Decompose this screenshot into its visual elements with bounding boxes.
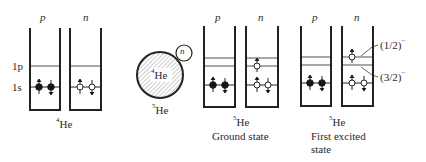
neutron-spin-up [254,77,260,92]
excited-proton-well [301,26,331,106]
excited-caption-line1: First excited [311,131,366,142]
proton-spin-up [307,75,314,90]
core-he4-label: 4He [151,70,167,81]
excited-neutron-column-label: n [354,12,360,23]
extra-neutron-label: n [180,47,185,56]
excited-caption-line2: state [311,144,331,155]
proton-spin-up [36,79,43,94]
level-three-halves-label: (3/2)− [380,72,405,83]
ground-he5-label: 5He [233,117,249,128]
neutron-spin-up [77,79,83,94]
proton-spin-down [48,80,55,95]
excited-neutron-well [342,26,378,106]
he4-proton-well [30,28,60,110]
neutron-spin-up [349,49,355,63]
proton-spin-down [222,78,229,93]
proton-spin-up [210,77,217,92]
he4-neutron-well [70,28,101,110]
level-half-label: (1/2)− [380,40,405,51]
he4-label: 4He [56,119,72,130]
proton-spin-down [319,76,326,91]
level-1p-label: 1p [12,61,23,72]
neutron-spin-up [349,75,355,90]
level-1s-label: 1s [12,82,22,93]
ground-proton-well [204,26,235,107]
ground-proton-column-label: p [215,12,221,23]
he5-cluster-label: 5He [152,105,168,116]
ground-neutron-column-label: n [258,12,264,23]
excited-proton-column-label: p [312,12,318,23]
neutron-spin-up [254,58,260,72]
proton-column-label: p [40,12,46,23]
neutron-column-label: n [83,12,89,23]
ground-neutron-well [246,26,278,107]
neutron-spin-down [265,78,271,93]
ground-state-caption: Ground state [212,131,269,142]
neutron-spin-down [361,76,367,91]
excited-he5-label: 5He [329,117,345,128]
neutron-spin-down [89,80,95,95]
